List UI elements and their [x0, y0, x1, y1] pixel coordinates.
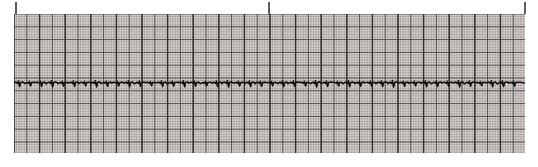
- ecg-rhythm-strip-figure: [0, 0, 538, 167]
- time-marker-tick-2: [524, 2, 526, 14]
- ecg-graph-paper: [14, 14, 525, 153]
- ecg-waveform-path: [14, 81, 525, 87]
- time-marker-tick-1: [268, 2, 270, 14]
- ecg-trace: [14, 14, 525, 153]
- time-marker-tick-0: [15, 2, 17, 14]
